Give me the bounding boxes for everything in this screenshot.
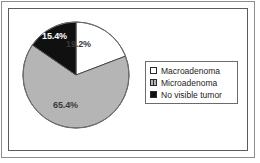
legend-item-macroadenoma[interactable]: Macroadenoma (150, 65, 233, 76)
data-label-no-visible-tumor: 15.4% (42, 31, 67, 41)
legend-label-microadenoma: Microadenoma (161, 78, 217, 88)
data-label-microadenoma: 65.4% (53, 100, 78, 110)
legend-label-no-visible-tumor: No visible tumor (161, 90, 222, 100)
legend-item-microadenoma[interactable]: Microadenoma (150, 77, 233, 88)
chart-legend: Macroadenoma Microadenoma No visible tum… (145, 61, 238, 104)
square-filled-icon (150, 91, 157, 98)
square-outline-icon (150, 67, 157, 74)
pie-svg (22, 20, 130, 130)
legend-item-no-visible-tumor[interactable]: No visible tumor (150, 89, 233, 100)
legend-label-macroadenoma: Macroadenoma (161, 66, 220, 76)
pie-plot (22, 20, 130, 130)
square-hatched-icon (150, 79, 157, 86)
data-label-macroadenoma: 19.2% (66, 39, 91, 49)
pie-chart-figure: 19.2% 65.4% 15.4% Macroadenoma Microaden… (0, 0, 260, 163)
